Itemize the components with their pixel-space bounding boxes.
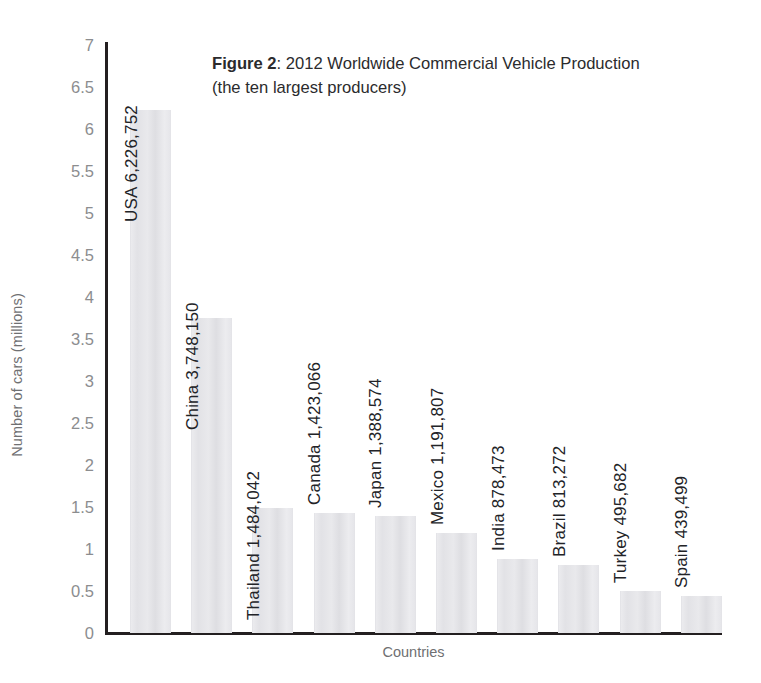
y-axis-tick-6: 6	[85, 120, 94, 139]
bar-canada[interactable]	[314, 513, 355, 633]
bar-japan[interactable]	[375, 516, 416, 633]
plot-area: USA 6,226,752China 3,748,150Thailand 1,4…	[105, 42, 725, 633]
bar-mexico[interactable]	[436, 533, 477, 633]
bar-label-japan: Japan 1,388,574	[366, 379, 386, 509]
y-axis-tick-1-5: 1.5	[71, 498, 94, 517]
y-axis-title: Number of cars (millions)	[0, 240, 34, 510]
bar-brazil[interactable]	[558, 565, 599, 633]
bar-label-spain: Spain 439,499	[672, 476, 692, 588]
bar-label-thailand: Thailand 1,484,042	[244, 471, 264, 620]
x-axis-title: Countries	[105, 644, 722, 660]
bar-label-turkey: Turkey 495,682	[611, 463, 631, 583]
y-axis-tick-labels: 76.565.554.543.532.521.510.50	[38, 0, 100, 683]
bar-india[interactable]	[497, 559, 538, 633]
bar-turkey[interactable]	[620, 591, 661, 633]
y-axis-tick-1: 1	[85, 540, 94, 559]
bar-label-china: China 3,748,150	[183, 302, 203, 430]
y-axis-tick-0-5: 0.5	[71, 582, 94, 601]
bar-label-mexico: Mexico 1,191,807	[428, 387, 448, 524]
bar-label-india: India 878,473	[489, 446, 509, 552]
figure-title-separator: :	[277, 54, 286, 73]
y-axis-tick-4: 4	[85, 288, 94, 307]
figure-title: Figure 2: 2012 Worldwide Commercial Vehi…	[212, 52, 742, 99]
bar-label-canada: Canada 1,423,066	[305, 362, 325, 505]
y-axis-tick-5-5: 5.5	[71, 162, 94, 181]
y-axis-tick-6-5: 6.5	[71, 78, 94, 97]
figure-title-label: Figure 2	[212, 54, 277, 73]
y-axis-tick-3-5: 3.5	[71, 330, 94, 349]
y-axis-tick-2: 2	[85, 456, 94, 475]
y-axis-tick-2-5: 2.5	[71, 414, 94, 433]
bar-spain[interactable]	[681, 596, 722, 633]
y-axis-tick-5: 5	[85, 204, 94, 223]
y-axis-tick-0: 0	[85, 624, 94, 643]
bar-label-brazil: Brazil 813,272	[550, 445, 570, 556]
y-axis-title-text: Number of cars (millions)	[9, 293, 25, 457]
figure-title-line2: (the ten largest producers)	[212, 78, 407, 97]
figure-title-line1: 2012 Worldwide Commercial Vehicle Produc…	[286, 54, 640, 73]
y-axis-tick-4-5: 4.5	[71, 246, 94, 265]
bar-label-usa: USA 6,226,752	[122, 105, 142, 222]
y-axis-tick-3: 3	[85, 372, 94, 391]
bar-chart-figure: Number of cars (millions) 76.565.554.543…	[0, 0, 761, 683]
y-axis-tick-7: 7	[85, 36, 94, 55]
